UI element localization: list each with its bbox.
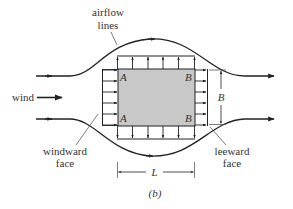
windward-pressure-arrows	[102, 69, 118, 126]
leeward-label-line2: face	[223, 157, 241, 169]
airflow-leader	[111, 32, 117, 45]
airflow-label-line2: lines	[98, 19, 119, 31]
windward-label-line1: windward	[43, 145, 87, 157]
length-dimension-label: L	[150, 166, 157, 178]
leeward-leader	[210, 127, 226, 145]
airflow-label-line1: airflow	[92, 6, 124, 18]
top-suction-arrows	[117, 56, 195, 69]
corner-label-bottom-right: B	[185, 112, 192, 124]
corner-label-top-left: A	[119, 71, 127, 83]
wind-label: wind	[12, 91, 35, 103]
corner-label-bottom-left: A	[119, 112, 127, 124]
windward-label-line2: face	[56, 157, 74, 169]
wind-diagram: airflow lines wind windward face leeward…	[0, 0, 293, 209]
leeward-label-line1: leeward	[215, 145, 250, 157]
leeward-suction-arrows	[195, 69, 208, 126]
width-dimension-label: B	[218, 91, 225, 103]
figure-caption: (b)	[149, 187, 162, 200]
building	[118, 69, 195, 126]
bottom-suction-arrows	[117, 126, 195, 139]
corner-label-top-right: B	[185, 71, 192, 83]
